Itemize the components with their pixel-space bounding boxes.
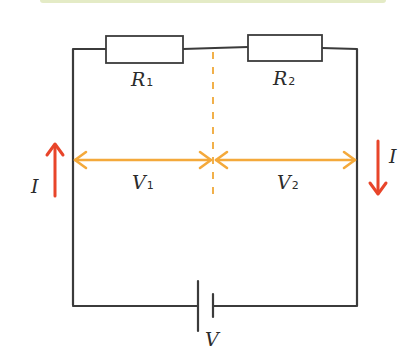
label-v2: V2 <box>277 171 299 193</box>
label-r2: R2 <box>272 67 295 89</box>
circuit-diagram: R1 R2 V1 V2 I I V <box>0 0 416 361</box>
v2-double-arrow <box>216 152 355 168</box>
resistor-r2 <box>248 35 322 61</box>
wire-top-middle <box>183 47 248 49</box>
label-battery-voltage: V <box>205 328 221 350</box>
current-arrow-up-icon <box>47 144 63 196</box>
label-v1: V1 <box>132 171 154 193</box>
current-arrow-down-icon <box>370 141 386 194</box>
wire-top-right <box>322 48 357 306</box>
label-current-right: I <box>388 145 397 167</box>
wire-top-left <box>73 49 106 305</box>
v1-double-arrow <box>75 152 211 168</box>
label-current-left: I <box>30 175 39 197</box>
label-r1: R1 <box>130 68 153 90</box>
resistor-r1 <box>106 36 183 63</box>
